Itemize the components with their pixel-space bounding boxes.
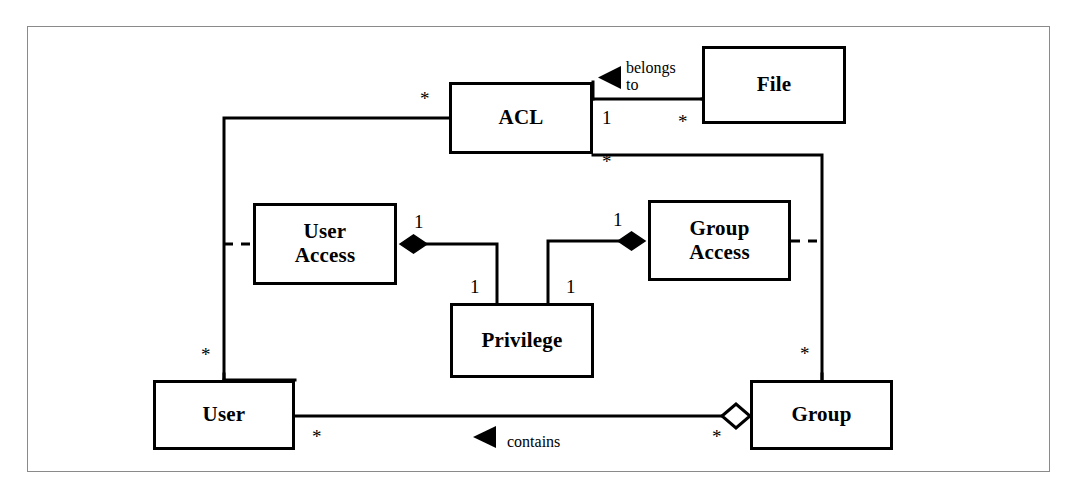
belongs-to-arrow-icon bbox=[598, 66, 621, 89]
multiplicity-acl-group: * bbox=[602, 152, 612, 171]
class-box-acl[interactable]: ACL bbox=[449, 82, 593, 154]
class-box-privilege[interactable]: Privilege bbox=[450, 303, 594, 378]
multiplicity-acl-file: 1 bbox=[602, 108, 612, 127]
class-name-group-access: GroupAccess bbox=[689, 217, 750, 264]
composition-diamond-user-access-icon bbox=[400, 235, 427, 253]
multiplicity-group-acl: * bbox=[800, 344, 810, 363]
class-name-acl: ACL bbox=[499, 106, 544, 130]
class-box-file[interactable]: File bbox=[702, 46, 846, 124]
association-label-contains: contains bbox=[507, 433, 560, 450]
multiplicity-privilege-right: 1 bbox=[566, 277, 576, 296]
connector-useraccess-privilege bbox=[427, 244, 497, 303]
class-box-user-access[interactable]: UserAccess bbox=[253, 203, 397, 285]
multiplicity-group-contains: * bbox=[712, 427, 722, 446]
class-name-privilege: Privilege bbox=[481, 329, 562, 353]
multiplicity-privilege-left: 1 bbox=[470, 277, 480, 296]
multiplicity-group-access: 1 bbox=[613, 210, 623, 229]
class-name-user-access: UserAccess bbox=[295, 220, 356, 267]
contains-arrow-icon bbox=[473, 426, 496, 448]
multiplicity-user-acl: * bbox=[201, 345, 211, 364]
aggregation-diamond-group-icon bbox=[722, 404, 750, 428]
class-name-user: User bbox=[203, 403, 246, 427]
composition-diamond-group-access-icon bbox=[618, 232, 645, 250]
uml-diagram-canvas: ACL File UserAccess GroupAccess Privileg… bbox=[0, 0, 1073, 492]
class-box-user[interactable]: User bbox=[153, 380, 295, 450]
association-label-belongs-to: belongsto bbox=[626, 59, 676, 94]
multiplicity-user-access: 1 bbox=[414, 212, 424, 231]
multiplicity-file-acl: * bbox=[678, 112, 688, 131]
class-name-group: Group bbox=[791, 403, 851, 427]
class-name-file: File bbox=[757, 73, 792, 97]
class-box-group-access[interactable]: GroupAccess bbox=[648, 200, 791, 281]
class-box-group[interactable]: Group bbox=[750, 380, 893, 450]
multiplicity-acl-user: * bbox=[420, 89, 430, 108]
connector-groupaccess-privilege bbox=[548, 241, 618, 303]
multiplicity-user-contains: * bbox=[312, 427, 322, 446]
